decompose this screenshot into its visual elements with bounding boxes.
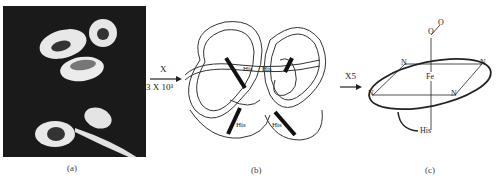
histidine-label: His: [420, 126, 431, 135]
oxygen-label-2: O: [438, 18, 444, 27]
heme-diagram: [0, 0, 498, 183]
oxygen-label-1: O: [428, 27, 434, 36]
nitrogen-label-4: N: [451, 89, 457, 98]
nitrogen-label-3: N: [368, 89, 374, 98]
nitrogen-label-1: N: [401, 58, 407, 67]
iron-label: Fe: [426, 72, 434, 81]
caption-c: (c): [425, 165, 435, 175]
nitrogen-label-2: N: [480, 58, 486, 67]
